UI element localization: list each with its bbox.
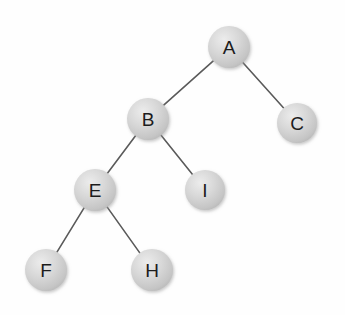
tree-node-h[interactable]: H — [131, 249, 173, 291]
tree-node-f[interactable]: F — [25, 249, 67, 291]
tree-edge-b-i — [159, 133, 194, 177]
node-label-h: H — [145, 260, 159, 281]
tree-node-c[interactable]: C — [277, 103, 317, 143]
tree-edge-e-h — [105, 205, 141, 256]
tree-node-a[interactable]: A — [208, 26, 250, 68]
binary-tree-figure: ABCEIFH — [0, 0, 345, 315]
tree-edge-e-f — [55, 205, 85, 254]
tree-edges — [55, 59, 285, 255]
tree-edge-a-b — [161, 59, 215, 107]
node-label-a: A — [223, 37, 236, 58]
tree-nodes: ABCEIFH — [25, 26, 317, 291]
tree-edge-b-e — [106, 133, 137, 175]
node-label-c: C — [290, 113, 304, 134]
tree-node-i[interactable]: I — [185, 170, 225, 210]
node-label-f: F — [40, 260, 52, 281]
tree-node-b[interactable]: B — [127, 98, 169, 140]
node-label-i: I — [202, 180, 207, 201]
node-label-b: B — [142, 109, 155, 130]
node-label-e: E — [89, 180, 102, 201]
tree-canvas: ABCEIFH — [0, 0, 345, 315]
tree-edge-a-c — [241, 60, 286, 110]
tree-node-e[interactable]: E — [74, 169, 116, 211]
